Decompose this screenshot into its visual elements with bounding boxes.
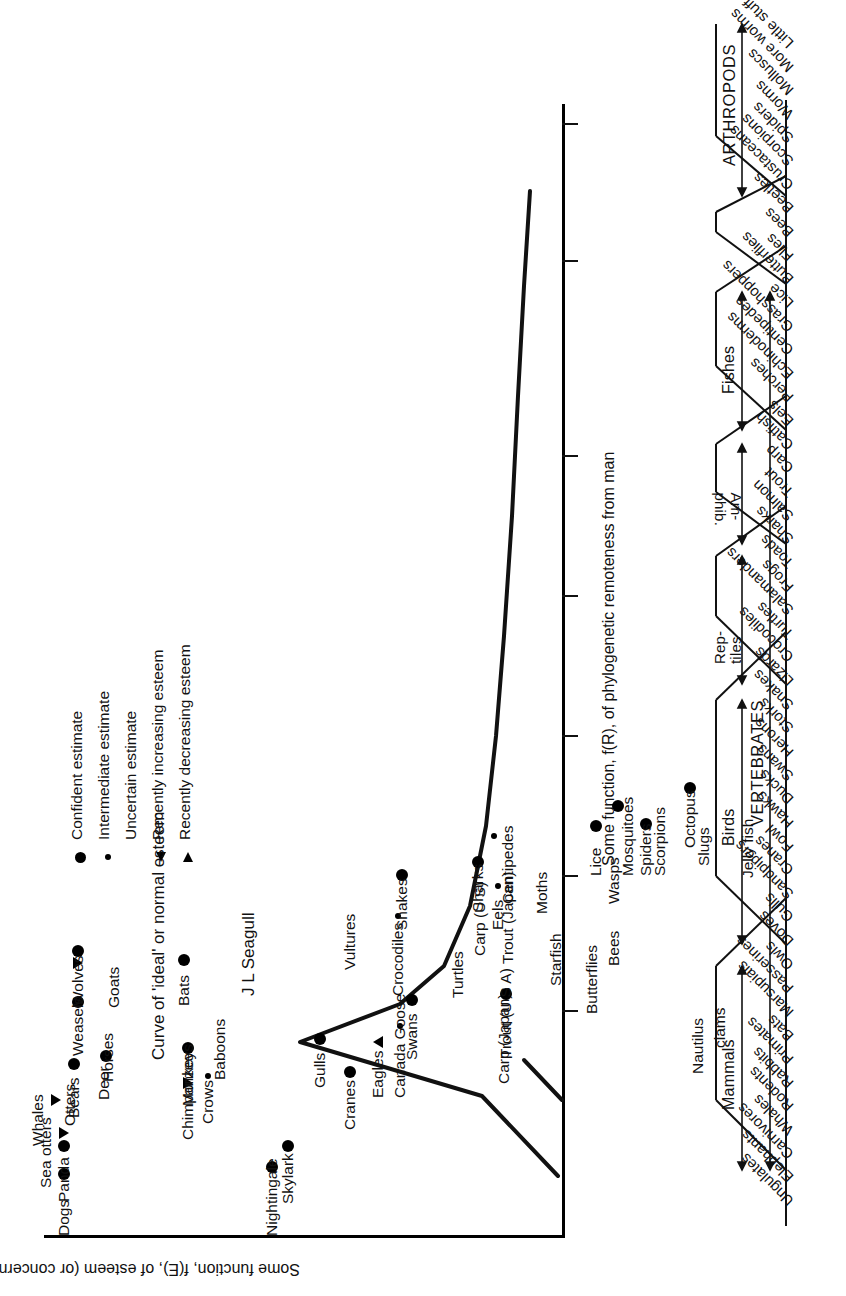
bracket-label-amphibians: Am- phib.	[712, 492, 744, 526]
bracket-label-reptiles: Rep- tiles	[712, 631, 744, 664]
bracket-label-birds: Birds	[720, 809, 738, 846]
figure-page: Some function, f(E), of esteem (or conce…	[0, 0, 846, 1296]
rotated-figure-stage: Some function, f(E), of esteem (or conce…	[0, 0, 846, 1296]
bracket-label-arthropods: ARTHROPODS	[720, 44, 739, 166]
bracket-label-fishes: Fishes	[720, 346, 738, 394]
bracket-label-mammals: Mammals	[720, 1039, 738, 1110]
